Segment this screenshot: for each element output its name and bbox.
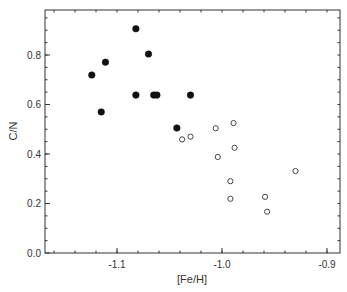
- filled-marker: [133, 25, 140, 32]
- chart-canvas: -1.1-1.0-0.9 0.00.20.40.60.8 [Fe/H] C/N: [0, 0, 347, 292]
- filled-marker: [133, 92, 140, 99]
- open-marker: [232, 145, 237, 150]
- filled-marker: [174, 125, 181, 132]
- data-points: [89, 25, 299, 214]
- y-tick-label: 0.8: [27, 50, 41, 61]
- filled-marker: [145, 51, 152, 58]
- filled-marker: [98, 109, 105, 116]
- y-axis-label: C/N: [7, 121, 19, 140]
- open-marker: [180, 137, 185, 142]
- open-marker: [293, 168, 298, 173]
- filled-marker: [187, 92, 194, 99]
- x-tick-label: -0.9: [318, 259, 336, 270]
- open-marker: [213, 126, 218, 131]
- x-axis-ticks: -1.1-1.0-0.9: [54, 10, 336, 270]
- x-tick-label: -1.1: [108, 259, 126, 270]
- open-marker: [262, 194, 267, 199]
- plot-frame: [45, 10, 340, 253]
- open-marker: [215, 154, 220, 159]
- open-marker: [228, 196, 233, 201]
- scatter-chart: -1.1-1.0-0.9 0.00.20.40.60.8 [Fe/H] C/N: [0, 0, 347, 292]
- y-tick-label: 0.0: [27, 248, 41, 259]
- x-tick-label: -1.0: [213, 259, 231, 270]
- y-tick-label: 0.4: [27, 149, 41, 160]
- open-marker: [228, 179, 233, 184]
- x-axis-label: [Fe/H]: [177, 273, 207, 285]
- y-tick-label: 0.2: [27, 198, 41, 209]
- open-marker: [188, 134, 193, 139]
- filled-marker: [154, 92, 161, 99]
- filled-marker: [102, 59, 109, 66]
- filled-marker: [89, 72, 96, 79]
- open-marker: [265, 209, 270, 214]
- y-tick-label: 0.6: [27, 99, 41, 110]
- open-marker: [231, 120, 236, 125]
